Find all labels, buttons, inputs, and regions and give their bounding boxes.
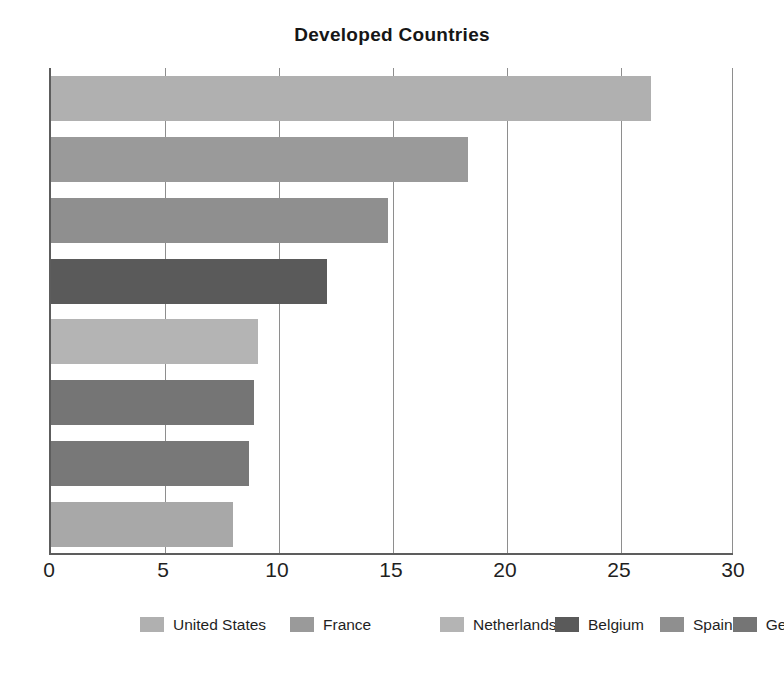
legend-item-netherlands[interactable]: Netherlands [440, 616, 555, 634]
chart-title: Developed Countries [0, 24, 784, 46]
legend-swatch-icon [555, 617, 579, 632]
x-tick-label-10: 10 [247, 558, 307, 582]
x-tick-label-5: 5 [133, 558, 193, 582]
legend-label: Belgium [588, 616, 644, 634]
bars-group [51, 68, 733, 553]
legend-swatch-icon [660, 617, 684, 632]
legend-label: France [323, 616, 371, 634]
legend-item-belgium[interactable]: Belgium [555, 616, 660, 634]
legend-label: United States [173, 616, 266, 634]
legend-item-spain[interactable]: Spain [660, 616, 733, 634]
legend-item-france[interactable]: France [290, 616, 440, 634]
plot-area [49, 68, 733, 555]
legend-item-germany[interactable]: Germany [733, 616, 784, 634]
bar-france [51, 137, 468, 182]
x-tick-label-15: 15 [361, 558, 421, 582]
legend-label: Netherlands [473, 616, 557, 634]
legend-label: Spain [693, 616, 733, 634]
bar-japan [51, 441, 249, 486]
bar-united-states [51, 76, 651, 121]
chart-legend: United StatesFranceNetherlandsBelgiumSpa… [140, 612, 660, 637]
x-tick-label-20: 20 [475, 558, 535, 582]
x-tick-label-30: 30 [703, 558, 763, 582]
x-tick-label-25: 25 [589, 558, 649, 582]
legend-item-united-states[interactable]: United States [140, 616, 290, 634]
bar-spain [51, 198, 388, 243]
bar-belgium [51, 259, 327, 304]
bar-chart: Developed Countries 051015202530 United … [0, 0, 784, 698]
legend-swatch-icon [140, 617, 164, 632]
legend-swatch-icon [290, 617, 314, 632]
bar-italy [51, 502, 233, 547]
x-tick-label-0: 0 [19, 558, 79, 582]
legend-swatch-icon [733, 617, 757, 632]
bar-netherlands [51, 319, 258, 364]
legend-swatch-icon [440, 617, 464, 632]
legend-label: Germany [766, 616, 784, 634]
bar-germany [51, 380, 254, 425]
